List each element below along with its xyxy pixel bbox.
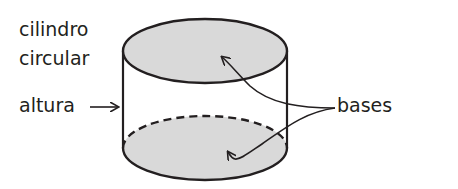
height-label: altura (19, 96, 75, 115)
top-base (123, 19, 287, 83)
shape-name-line2: circular (19, 49, 89, 68)
shape-name-line1: cilindro (19, 20, 88, 39)
bases-label: bases (337, 96, 392, 115)
